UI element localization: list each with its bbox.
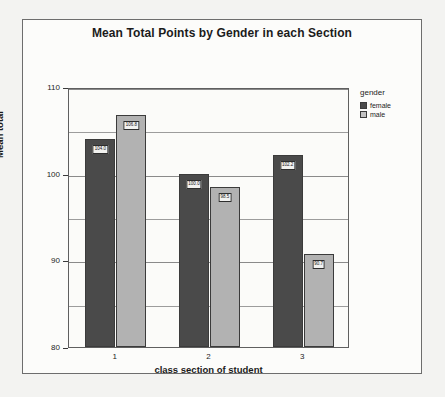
y-tick-mark xyxy=(63,348,68,349)
legend-item-female[interactable]: female xyxy=(360,102,430,109)
legend-title: gender xyxy=(360,88,430,97)
y-tick-mark xyxy=(63,261,68,262)
chart-page: Mean Total Points by Gender in each Sect… xyxy=(0,0,445,397)
bar-male-section-1 xyxy=(116,115,146,347)
legend-items: femalemale xyxy=(360,102,430,118)
bar-value-label: 90.7 xyxy=(312,260,325,269)
bar-female-section-2 xyxy=(179,174,209,347)
bar-male-section-2 xyxy=(210,187,240,347)
y-tick-label: 110 xyxy=(30,84,60,92)
bar-value-label: 102.2 xyxy=(280,161,295,170)
plot-area: 104.0106.8100.098.5102.290.7 xyxy=(68,88,349,348)
gridline-major xyxy=(69,89,348,90)
bar-value-label: 104.0 xyxy=(93,145,108,154)
y-tick-mark xyxy=(63,88,68,89)
gridline-minor xyxy=(69,132,348,133)
y-tick-label: 100 xyxy=(30,171,60,179)
bar-value-label: 100.0 xyxy=(186,180,201,189)
bar-value-label: 106.8 xyxy=(124,121,139,130)
y-tick-label: 90 xyxy=(30,257,60,265)
bar-female-section-3 xyxy=(273,155,303,347)
legend-swatch-icon xyxy=(360,111,367,118)
y-tick-mark xyxy=(63,175,68,176)
legend: gender femalemale xyxy=(360,88,430,120)
legend-item-male[interactable]: male xyxy=(360,111,430,118)
legend-swatch-icon xyxy=(360,102,367,109)
page-title: Mean Total Points by Gender in each Sect… xyxy=(22,26,422,40)
legend-item-label: male xyxy=(370,111,385,118)
x-tick-label: 2 xyxy=(189,352,229,361)
x-tick-label: 3 xyxy=(282,352,322,361)
bar-female-section-1 xyxy=(85,139,115,347)
y-axis-title: Mean total xyxy=(0,111,5,158)
bar-value-label: 98.5 xyxy=(219,193,232,202)
legend-item-label: female xyxy=(370,102,391,109)
x-tick-label: 1 xyxy=(95,352,135,361)
y-tick-label: 80 xyxy=(30,344,60,352)
x-axis-title: class section of student xyxy=(68,364,349,375)
